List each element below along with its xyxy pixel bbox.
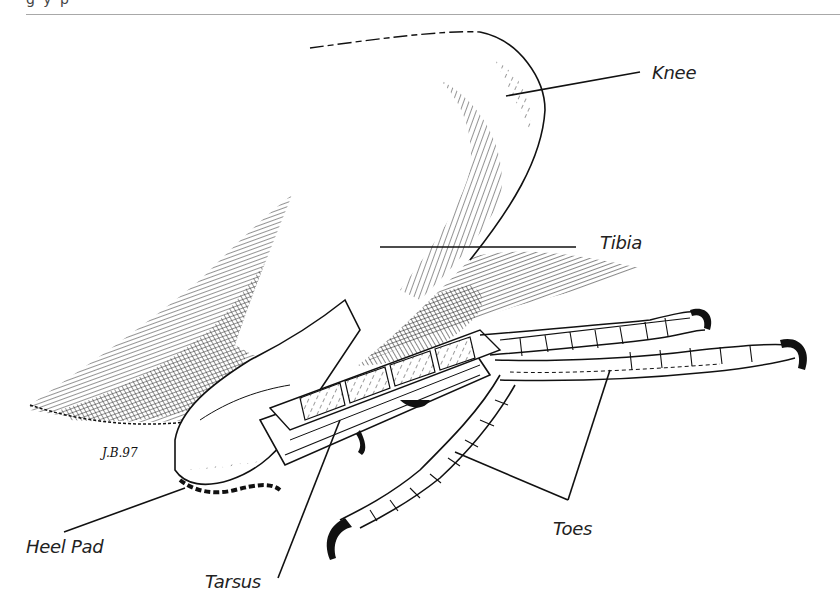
leader-toes-b	[568, 370, 610, 500]
bird-leg-illustration	[0, 0, 840, 602]
label-knee: Knee	[652, 62, 696, 83]
leader-toes-a	[455, 452, 568, 500]
artist-signature: J.B.97	[102, 446, 138, 460]
label-toes: Toes	[553, 518, 592, 539]
label-tarsus: Tarsus	[205, 571, 261, 592]
label-tibia: Tibia	[600, 232, 642, 253]
label-heel-pad: Heel Pad	[26, 536, 103, 557]
leader-heel-pad	[64, 488, 185, 532]
